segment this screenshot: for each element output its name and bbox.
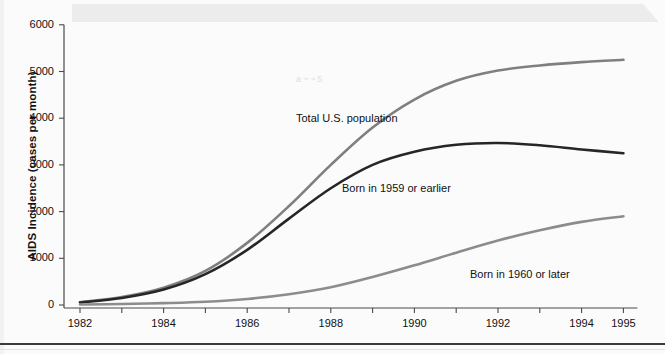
chart-canvas bbox=[0, 0, 665, 354]
series-annotation-born-1960-or-later: Born in 1960 or later bbox=[470, 268, 570, 280]
x-tick-label: 1984 bbox=[144, 318, 184, 329]
x-tick-label: 1986 bbox=[227, 318, 267, 329]
x-tick-label: 1988 bbox=[311, 318, 351, 329]
x-tick-label: 1995 bbox=[603, 318, 643, 329]
x-tick-label: 1994 bbox=[562, 318, 602, 329]
page-bottom-rule bbox=[0, 343, 665, 345]
scan-artifact-mark: a~~5 bbox=[296, 74, 325, 84]
y-tick-label: 1000 bbox=[8, 252, 54, 263]
y-tick-label: 5000 bbox=[8, 66, 54, 77]
y-tick-label: 4000 bbox=[8, 112, 54, 123]
x-axis-ticks bbox=[80, 308, 623, 313]
x-tick-label: 1982 bbox=[60, 318, 100, 329]
series-annotation-born-1959-or-earlier: Born in 1959 or earlier bbox=[342, 182, 451, 194]
plot-area: AIDS Incidence (cases per month) 0100020… bbox=[0, 0, 665, 354]
y-tick-label: 2000 bbox=[8, 206, 54, 217]
aids-incidence-figure: AIDS Incidence (cases per month) 0100020… bbox=[0, 0, 665, 354]
y-tick-label: 6000 bbox=[8, 19, 54, 30]
y-tick-label: 3000 bbox=[8, 159, 54, 170]
series-line-total-u-s-population bbox=[80, 60, 623, 302]
x-tick-label: 1990 bbox=[394, 318, 434, 329]
series-annotation-total-us-population: Total U.S. population bbox=[296, 112, 398, 124]
page-bottom-rule-secondary bbox=[0, 349, 665, 350]
x-tick-label: 1992 bbox=[478, 318, 518, 329]
y-axis-ticks bbox=[59, 25, 64, 305]
y-tick-label: 0 bbox=[8, 299, 54, 310]
